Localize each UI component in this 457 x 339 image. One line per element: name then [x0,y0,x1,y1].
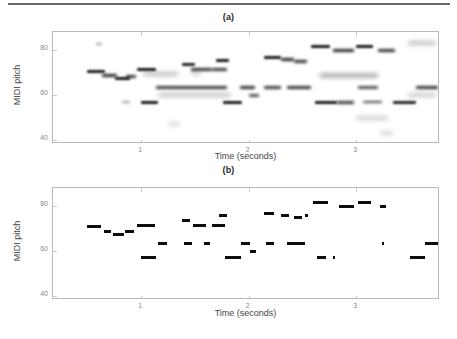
xtick-mark-top [141,32,142,36]
panel-a: (a) MIDI pitch Time (seconds) 406080123 [0,12,457,162]
xtick-mark [356,140,357,143]
xtick-label: 2 [238,146,258,153]
salience-trace [156,86,227,89]
ytick-mark [53,140,57,141]
xtick-mark [141,140,142,143]
xtick-mark-top [141,188,142,192]
salience-trace [137,68,156,71]
note-segment [358,201,371,204]
xtick-mark-top [356,32,357,36]
panel-a-title: (a) [0,12,457,22]
note-segment [137,224,155,227]
salience-trace [212,68,227,71]
note-segment [141,256,156,259]
salience-trace [281,58,294,61]
salience-trace [169,123,180,125]
salience-trace [358,86,377,89]
ytick-label: 80 [28,200,48,207]
note-segment [425,242,438,245]
ytick-label: 40 [28,290,48,297]
salience-trace [249,94,260,97]
xtick-mark [249,296,250,299]
salience-trace [416,86,438,89]
ytick-label: 80 [28,44,48,51]
note-segment [184,242,192,245]
salience-trace [191,68,213,71]
note-segment [193,224,206,227]
ytick-label: 60 [28,245,48,252]
salience-trace [333,49,355,52]
salience-trace [264,86,281,89]
panel-a-ylabel: MIDI pitch [12,55,22,115]
note-segment [250,250,256,253]
salience-trace [216,59,229,62]
salience-trace [363,101,382,104]
xtick-mark-top [249,188,250,192]
salience-trace [378,49,395,52]
salience-trace [141,101,158,104]
ytick-mark [53,95,57,96]
note-segment [266,242,275,245]
panel-b-ylabel: MIDI pitch [12,211,22,271]
salience-trace [393,101,417,104]
ytick-mark [53,251,57,252]
salience-trace [96,43,102,45]
salience-trace [380,132,393,134]
xtick-mark [249,140,250,143]
salience-trace [356,117,388,119]
xtick-mark-top [249,32,250,36]
xtick-mark [356,296,357,299]
note-segment [125,230,134,233]
ytick-label: 60 [28,89,48,96]
salience-trace [311,45,330,48]
panel-a-plot-area [52,31,439,143]
note-segment [313,201,328,204]
salience-trace [337,101,354,104]
note-segment [339,205,354,208]
note-segment [219,214,228,217]
note-segment [264,212,275,215]
note-segment [410,256,425,259]
salience-trace [408,94,436,96]
salience-trace [294,60,307,63]
salience-trace [320,74,378,76]
salience-trace [356,45,373,48]
xtick-label: 1 [130,146,150,153]
salience-trace [122,101,131,103]
xtick-mark-top [356,188,357,192]
note-segment [212,224,225,227]
ytick-mark [53,50,57,51]
panel-b: (b) MIDI pitch Time (seconds) 406080123 [0,165,457,339]
note-segment [204,242,210,245]
figure-root: (a) MIDI pitch Time (seconds) 406080123 … [0,0,457,339]
note-segment [382,242,384,245]
ytick-mark [53,296,57,297]
note-segment [305,214,308,217]
note-segment [317,256,326,259]
panel-b-plot-area [52,187,439,299]
salience-trace [182,63,195,66]
xtick-mark [141,296,142,299]
note-segment [333,256,335,259]
note-segment [294,216,303,219]
salience-trace [191,72,202,74]
salience-trace [158,94,231,96]
salience-trace [87,70,104,73]
ytick-mark [53,206,57,207]
note-segment [104,230,112,233]
xtick-label: 3 [345,146,365,153]
salience-trace [126,75,136,78]
note-segment [225,256,241,259]
xtick-label: 2 [238,302,258,309]
panel-b-xlabel: Time (seconds) [52,308,439,318]
note-segment [287,242,304,245]
note-segment [241,242,250,245]
note-segment [113,233,124,236]
ytick-label: 40 [28,134,48,141]
panel-b-title: (b) [0,165,457,175]
salience-trace [240,86,255,89]
note-segment [281,214,290,217]
salience-trace [223,101,242,104]
note-segment [380,205,386,208]
note-segment [158,242,167,245]
